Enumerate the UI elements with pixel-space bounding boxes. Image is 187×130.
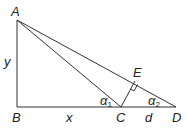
segment-CE [121,81,135,107]
geometry-diagram: A y B x C d D E α1 α2 [0,0,187,130]
alpha1-subscript: 1 [107,100,111,109]
point-label-D: D [172,111,181,124]
point-label-B: B [12,111,21,124]
segment-label-y: y [4,55,11,68]
diagram-lines [0,0,187,130]
point-label-C: C [116,111,125,124]
point-label-E: E [133,66,142,79]
angle-label-alpha2: α2 [148,94,160,109]
point-label-A: A [11,5,20,18]
segment-label-x: x [66,111,73,124]
alpha2-subscript: 2 [155,100,159,109]
angle-label-alpha1: α1 [100,94,112,109]
segment-label-d: d [145,111,152,124]
